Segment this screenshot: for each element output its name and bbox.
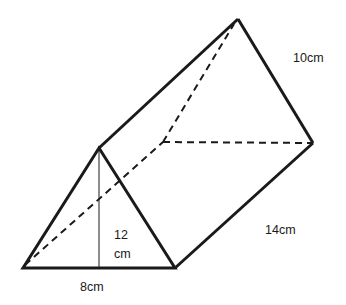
- triangular-prism-diagram: 10cm 14cm 12 cm 8cm: [0, 0, 346, 305]
- hidden-edge-back-left-slant: [163, 24, 234, 142]
- hidden-edge-back-base: [163, 142, 313, 143]
- back-right-slant-edge: [238, 19, 313, 143]
- bottom-right-length-edge: [175, 143, 313, 268]
- label-base: 8cm: [80, 280, 104, 294]
- label-height-unit: cm: [114, 247, 131, 261]
- label-length: 14cm: [265, 223, 296, 237]
- label-slant-edge: 10cm: [293, 51, 324, 65]
- hidden-edge-bottom-left-to-back: [25, 142, 163, 265]
- top-ridge-edge: [99, 19, 238, 148]
- label-height-number: 12: [114, 228, 128, 242]
